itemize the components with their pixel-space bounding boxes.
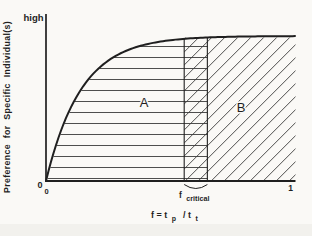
hatch-line [219, 26, 312, 186]
hatch-line [128, 26, 288, 186]
figure-canvas: high Preference for Specific Individual(… [0, 0, 312, 236]
hatch-line [24, 26, 184, 186]
critical-band-brace [184, 185, 207, 189]
hatch-line [180, 26, 312, 186]
hatch-line [89, 26, 249, 186]
region-b-label: B [237, 100, 246, 115]
hatch-line [154, 26, 312, 186]
hatch-line [297, 26, 312, 186]
y-max-label: high [23, 12, 43, 23]
hatch-line [245, 26, 312, 186]
hatch-line [284, 26, 312, 186]
hatch-line [37, 26, 197, 186]
x-axis-title: f = t p / t t [151, 204, 198, 224]
region-a-label: A [140, 95, 149, 110]
x-max-label: 1 [288, 183, 293, 193]
figure: high Preference for Specific Individual(… [0, 0, 312, 236]
region-a-hatch [48, 47, 208, 179]
hatch-line [193, 26, 312, 186]
x-origin-label: 0 [44, 187, 48, 196]
hatch-line [206, 26, 312, 186]
y-axis-title: Preference for Specific Individual(s) [2, 21, 12, 193]
hatch-line [141, 26, 301, 186]
scan-artifact [0, 224, 312, 236]
hatch-line [258, 26, 312, 186]
y-origin-label: 0 [37, 180, 42, 190]
region-b-hatch [24, 26, 312, 186]
hatch-line [76, 26, 236, 186]
